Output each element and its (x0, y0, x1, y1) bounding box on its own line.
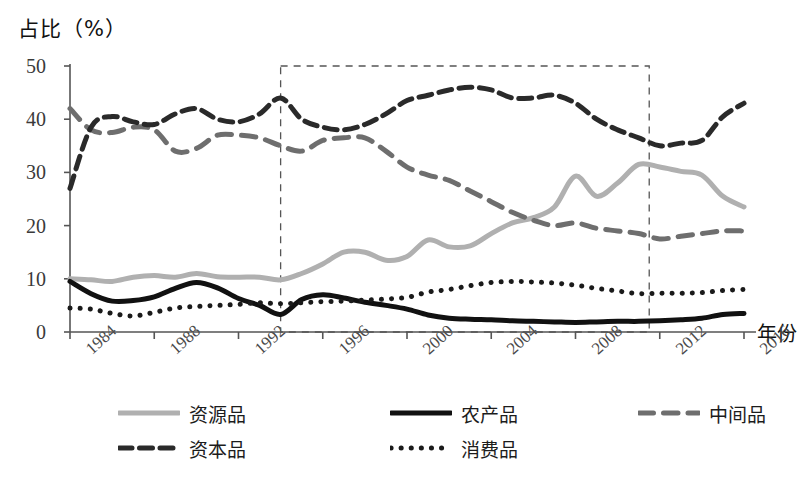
plot-area (0, 0, 809, 400)
legend-item-农产品[interactable]: 农产品 (390, 398, 518, 428)
legend-item-消费品[interactable]: 消费品 (390, 433, 518, 463)
legend-item-资源品[interactable]: 资源品 (118, 398, 246, 428)
chart-legend: 资源品农产品中间品资本品消费品 (0, 398, 809, 478)
series-line-0 (70, 164, 744, 282)
legend-label: 农产品 (461, 400, 518, 427)
legend-row: 资源品农产品中间品 (0, 398, 809, 432)
legend-row: 资本品消费品 (0, 433, 809, 467)
legend-swatch-icon (118, 406, 180, 420)
legend-label: 资源品 (189, 400, 246, 427)
legend-item-资本品[interactable]: 资本品 (118, 433, 246, 463)
legend-label: 中间品 (709, 400, 766, 427)
legend-label: 资本品 (189, 435, 246, 462)
legend-item-中间品[interactable]: 中间品 (638, 398, 766, 428)
legend-swatch-icon (390, 441, 452, 455)
series-line-2 (70, 109, 744, 239)
legend-swatch-icon (118, 441, 180, 455)
chart-root: 占比（%） 年份 01020304050 1984198819921996200… (0, 0, 809, 480)
legend-label: 消费品 (461, 435, 518, 462)
legend-swatch-icon (390, 406, 452, 420)
legend-swatch-icon (638, 406, 700, 420)
series-line-1 (70, 281, 744, 322)
annotation-dashed-rect-0 (281, 66, 650, 332)
series-line-3 (70, 87, 744, 188)
